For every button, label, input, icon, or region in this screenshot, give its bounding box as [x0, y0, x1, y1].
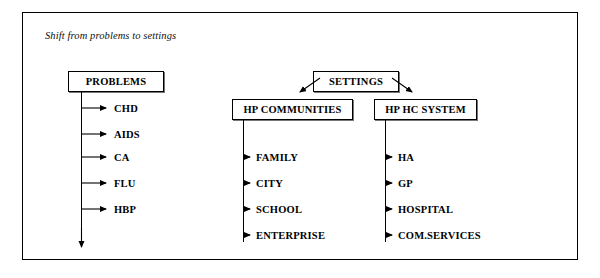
problems-trunk [81, 92, 82, 247]
leaf-hospital: HOSPITAL [398, 204, 453, 215]
diagram-page: Shift from problems to settings PROBLEMS… [0, 0, 600, 278]
leaf-enterprise: ENTERPRISE [256, 230, 325, 241]
leaf-family: FAMILY [256, 152, 298, 163]
node-hp-communities-label: HP COMMUNITIES [243, 104, 341, 115]
leaf-gp: GP [398, 178, 413, 189]
leaf-ha: HA [398, 152, 414, 163]
system-trunk [385, 120, 386, 242]
leaf-school: SCHOOL [256, 204, 302, 215]
leaf-ca: CA [114, 152, 130, 163]
node-settings[interactable]: SETTINGS [313, 71, 399, 92]
diagram-caption: Shift from problems to settings [45, 30, 176, 41]
node-problems-label: PROBLEMS [86, 76, 147, 87]
leaf-city: CITY [256, 178, 283, 189]
leaf-aids: AIDS [114, 129, 140, 140]
node-problems[interactable]: PROBLEMS [68, 71, 164, 92]
node-hp-communities[interactable]: HP COMMUNITIES [232, 99, 353, 120]
leaf-flu: FLU [114, 178, 136, 189]
leaf-com-services: COM.SERVICES [398, 230, 481, 241]
node-hp-hc-system-label: HP HC SYSTEM [385, 104, 466, 115]
node-hp-hc-system[interactable]: HP HC SYSTEM [374, 99, 477, 120]
leaf-chd: CHD [114, 103, 138, 114]
node-settings-label: SETTINGS [329, 76, 383, 87]
leaf-hbp: HBP [114, 204, 136, 215]
diagram-frame [22, 12, 578, 260]
communities-trunk [243, 120, 244, 242]
